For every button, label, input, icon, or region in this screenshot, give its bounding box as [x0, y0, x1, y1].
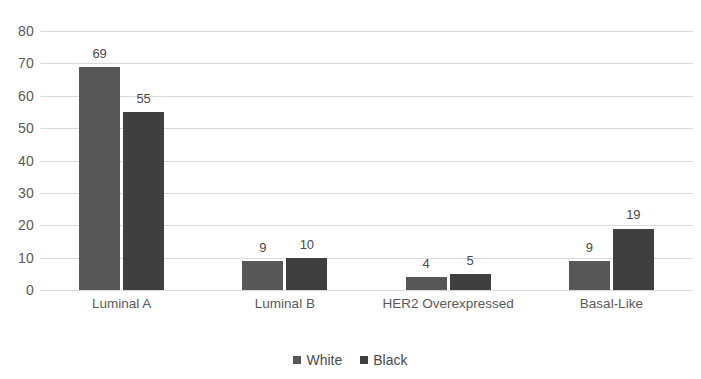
y-tick-label: 60: [18, 88, 34, 104]
bar-value-label: 9: [259, 240, 266, 255]
bar-white-2: [406, 277, 447, 290]
gridline: [40, 63, 693, 64]
category-label: HER2 Overexpressed: [382, 296, 513, 311]
y-tick-label: 70: [18, 55, 34, 71]
y-tick-label: 80: [18, 23, 34, 39]
bar-white-1: [242, 261, 283, 290]
bar-white-3: [569, 261, 610, 290]
bar-value-label: 9: [586, 240, 593, 255]
legend-item-black[interactable]: Black: [360, 352, 407, 368]
category-label: Luminal B: [255, 296, 315, 311]
legend-swatch-icon: [293, 356, 301, 364]
gridline: [40, 31, 693, 32]
y-axis: 80706050403020100: [0, 31, 34, 290]
legend-label: White: [306, 352, 342, 368]
chart-legend: WhiteBlack: [0, 352, 701, 368]
bar-black-0: [123, 112, 164, 290]
bar-value-label: 5: [467, 253, 474, 268]
legend-label: Black: [373, 352, 407, 368]
bar-value-label: 10: [300, 237, 314, 252]
category-label: Basal-Like: [580, 296, 643, 311]
y-tick-label: 0: [26, 282, 34, 298]
y-tick-label: 30: [18, 185, 34, 201]
bar-chart: 80706050403020100 695591045919 Luminal A…: [0, 0, 701, 379]
bar-value-label: 4: [423, 256, 430, 271]
bar-black-1: [286, 258, 327, 290]
y-tick-label: 20: [18, 217, 34, 233]
bar-value-label: 69: [92, 46, 106, 61]
bar-black-2: [450, 274, 491, 290]
y-tick-label: 50: [18, 120, 34, 136]
bar-value-label: 55: [136, 91, 150, 106]
legend-item-white[interactable]: White: [293, 352, 342, 368]
bar-value-label: 19: [626, 207, 640, 222]
y-tick-label: 40: [18, 153, 34, 169]
bar-white-0: [79, 67, 120, 290]
x-axis-category-labels: Luminal ALuminal BHER2 OverexpressedBasa…: [40, 296, 693, 320]
plot-area: 695591045919: [40, 31, 693, 290]
legend-swatch-icon: [360, 356, 368, 364]
bar-black-3: [613, 229, 654, 291]
y-tick-label: 10: [18, 250, 34, 266]
gridline: [40, 290, 693, 291]
category-label: Luminal A: [92, 296, 151, 311]
